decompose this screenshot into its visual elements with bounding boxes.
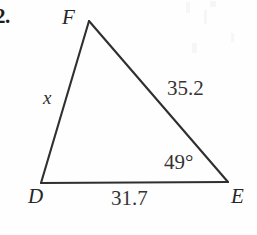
side-label-fe: 35.2 — [167, 78, 204, 99]
angle-label-e: 49° — [164, 152, 193, 173]
side-label-de: 31.7 — [111, 188, 148, 209]
vertex-label-d: D — [28, 186, 43, 207]
side-de-line — [41, 182, 228, 183]
vertex-label-e: E — [231, 186, 244, 207]
side-fe-line — [89, 21, 228, 182]
vertex-label-f: F — [62, 7, 75, 28]
problem-number: 2. — [0, 6, 10, 27]
side-label-x: x — [43, 88, 51, 107]
figure-canvas: 2. F D E x 35.2 31.7 49° — [0, 0, 257, 235]
